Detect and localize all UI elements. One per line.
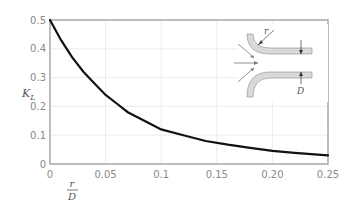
x-tick-label: 0.05 <box>94 169 116 180</box>
y-axis-label: KL <box>21 87 36 102</box>
loss-coefficient-chart: 00.10.20.30.40.5 00.050.10.150.200.25 KL… <box>0 0 353 212</box>
svg-text:r: r <box>264 26 269 36</box>
y-tick-label: 0.2 <box>30 101 46 112</box>
y-tick-label: 0.3 <box>30 72 46 83</box>
x-tick-label: 0 <box>47 169 53 180</box>
svg-text:D: D <box>296 86 304 96</box>
y-axis-ticks: 00.10.20.30.40.5 <box>30 15 46 170</box>
pipe-entrance-diagram: r D <box>234 24 328 102</box>
y-tick-label: 0.1 <box>30 130 46 141</box>
x-tick-label: 0.1 <box>153 169 169 180</box>
svg-text:D: D <box>67 191 76 202</box>
svg-text:r: r <box>70 178 76 189</box>
y-tick-label: 0.4 <box>30 43 46 54</box>
y-tick-label: 0 <box>40 159 46 170</box>
x-tick-label: 0.25 <box>317 169 339 180</box>
x-tick-label: 0.15 <box>206 169 228 180</box>
x-tick-label: 0.20 <box>261 169 283 180</box>
x-axis-label: r D <box>67 178 78 202</box>
x-axis-ticks: 00.050.10.150.200.25 <box>47 169 339 180</box>
y-tick-label: 0.5 <box>30 15 46 26</box>
